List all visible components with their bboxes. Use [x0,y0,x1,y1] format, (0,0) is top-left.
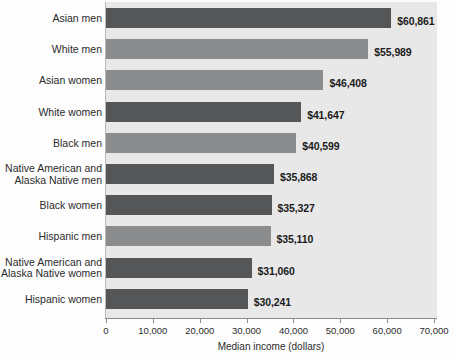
bar [106,39,368,59]
bar-value-label: $41,647 [307,106,344,124]
category-label: Asian men [0,13,102,25]
category-label: Black men [0,138,102,150]
bar [106,102,301,122]
bar [106,195,272,215]
bar-value-label: $46,408 [329,74,366,92]
tick-label: 60,000 [373,325,402,336]
bar [106,289,248,309]
tick-label: 50,000 [326,325,355,336]
bar-value-label: $30,241 [254,293,291,311]
tick-label: 10,000 [138,325,167,336]
bar-value-label: $35,868 [280,168,317,186]
tick-label: 20,000 [185,325,214,336]
tick-mark [293,319,294,323]
category-label: Native American and Alaska Native women [0,257,102,281]
x-axis-title: Median income (dollars) [105,341,437,352]
bar-value-label: $35,110 [277,230,314,248]
category-label: White men [0,44,102,56]
tick-mark [200,319,201,323]
bar-chart: $60,861$55,989$46,408$41,647$40,599$35,8… [0,0,455,359]
bar-value-label: $35,327 [278,199,315,217]
tick-mark [106,319,107,323]
tick-mark [434,319,435,323]
category-label: Hispanic men [0,231,102,243]
tick-mark [247,319,248,323]
bar-value-label: $55,989 [374,43,411,61]
category-label: Native American and Alaska Native men [0,163,102,187]
bar [106,8,391,28]
tick-mark [387,319,388,323]
category-label: Asian women [0,75,102,87]
bar [106,164,274,184]
bar-value-label: $60,861 [397,12,434,30]
tick-mark [153,319,154,323]
category-label: White women [0,107,102,119]
tick-label: 0 [103,325,108,336]
bar [106,133,296,153]
tick-label: 40,000 [279,325,308,336]
tick-label: 30,000 [232,325,261,336]
tick-label: 70,000 [419,325,448,336]
bar-value-label: $31,060 [258,262,295,280]
bar-value-label: $40,599 [302,137,339,155]
category-label: Black women [0,200,102,212]
bar [106,70,323,90]
bar [106,258,252,278]
bar [106,226,271,246]
category-label: Hispanic women [0,294,102,306]
tick-mark [340,319,341,323]
